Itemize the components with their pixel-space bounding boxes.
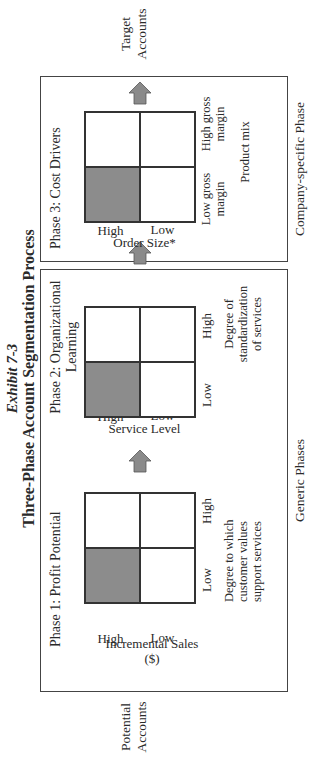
phase-1-x-axis-line3: support services [250,482,264,602]
right-arrow-icon [128,81,152,105]
phase-2-x-axis-line2: standardization [236,269,250,379]
phase-3-matrix [84,111,196,223]
phase-1-matrix [84,492,196,604]
phase-2-x-axis-label: Degree of standardization of services [222,269,264,379]
end-label-line2: Accounts [134,1,150,67]
phase-1-x-axis-label: Degree to which customer values support … [222,482,264,602]
phase-2-cell-low-high [140,307,195,362]
phase-3-x-low: Low gross margin [199,169,227,229]
phase-3-x-high: High gross margin [199,89,227,159]
phase-2-title-line1: Phase 2: Organizational [48,272,64,422]
phase-2-x-axis-line3: of services [250,269,264,379]
phase-1-x-axis-line2: customer values [236,482,250,602]
phase-2-title-line2: Learning [64,272,80,422]
phase-2-cell-high-high [85,307,140,362]
diagram-canvas: Exhibit 7-3 Three-Phase Account Segmenta… [0,0,314,757]
phase-1-y-low: Low [151,630,175,645]
end-label-line1: Target [118,1,134,67]
phase-1-x-low: Low [199,562,214,592]
phase-1-x-high: High [199,484,214,524]
phase-1-cell-high-low-shaded [85,548,140,603]
phase-1-title: Phase 1: Profit Potential [48,457,64,647]
exhibit-label: Exhibit 7-3 [4,0,21,757]
end-label: Target Accounts [118,1,150,67]
phase-3-x-low-line1: Low gross [199,169,213,229]
start-label: Potential Accounts [118,697,150,757]
phase-3-cell-low-low [140,167,195,222]
phase-3-x-low-line2: margin [213,169,227,229]
generic-phases-label: Generic Phases [292,269,308,692]
phase-2-x-axis-line1: Degree of [222,269,236,379]
phase-2-matrix [84,306,196,418]
phase-1-y-high: High [98,631,124,646]
start-label-line1: Potential [118,697,134,757]
phase-3-cell-high-high [85,112,140,167]
phase-1-cell-low-low [140,548,195,603]
start-label-line2: Accounts [134,697,150,757]
phase-1-cell-high-high [85,493,140,548]
phase-3-cell-high-low-shaded [85,167,140,222]
phase-2-cell-low-low [140,362,195,417]
diagram-title: Three-Phase Account Segmentation Process [20,0,38,757]
phase-2-x-high: High [199,299,214,339]
phase-3-cell-low-high [140,112,195,167]
phase-1-y-ticks: High Low [93,611,133,641]
phase-3-x-high-line2: margin [213,89,227,159]
phase-2-cell-high-low-shaded [85,362,140,417]
phase-3-y-low: Low [151,222,175,237]
company-specific-label: Company-specific Phase [292,76,308,262]
phase-3-x-axis-label: Product mix [238,102,252,202]
phase-1-cell-low-high [140,493,195,548]
right-arrow-icon [128,449,152,473]
phase-2-x-low: Low [199,377,214,407]
phase-2-title: Phase 2: Organizational Learning [48,272,80,422]
phase-3-y-high: High [98,223,124,238]
phase-1-x-axis-line1: Degree to which [222,482,236,602]
phase-3-title: Phase 3: Cost Drivers [48,89,64,249]
phase-3-x-high-line1: High gross [199,89,213,159]
